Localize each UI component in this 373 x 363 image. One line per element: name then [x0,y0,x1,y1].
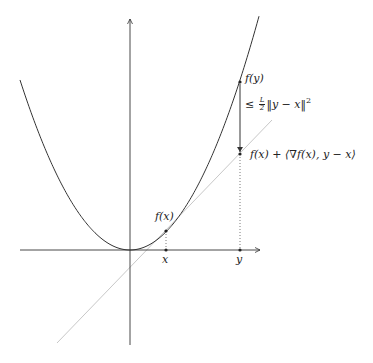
point-x [164,248,167,251]
point-lower-bound [238,152,241,155]
diagram-canvas [0,0,373,363]
point-fx [164,229,167,232]
label-y: y [236,254,242,265]
point-y [238,248,241,251]
gap-fraction: L2 [259,97,266,112]
label-lower-bound: f(x) + ⟨∇f(x), y − x⟩ [250,149,356,160]
gap-prefix: ≤ [245,98,254,111]
label-fx: f(x) [155,211,174,222]
label-fy: f(y) [245,73,264,84]
label-gap-bound: ≤ L2‖y − x‖2 [245,97,311,112]
gap-norm: ‖y − x‖ [266,98,306,111]
function-curve [20,16,259,250]
gap-power: 2 [306,96,311,105]
point-fy [238,80,241,83]
label-x: x [162,254,168,265]
